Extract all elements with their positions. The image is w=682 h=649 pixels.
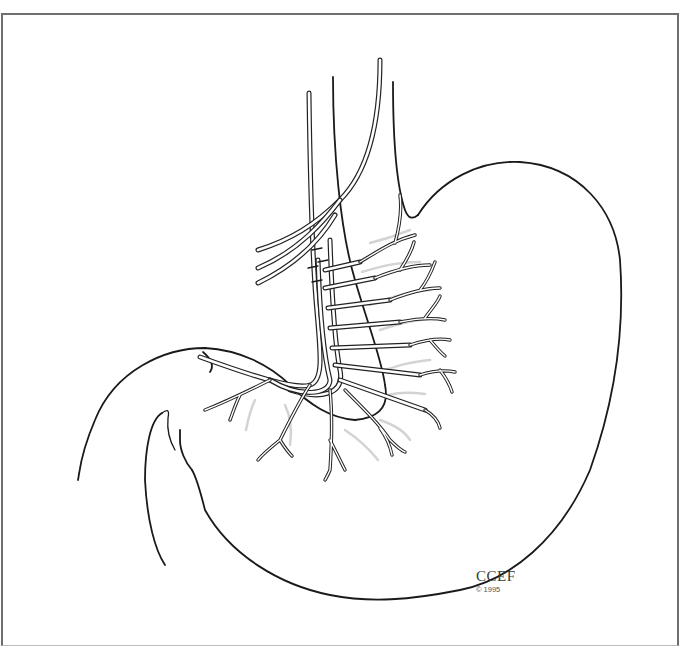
stomach-illustration xyxy=(0,0,682,649)
vagus-trunks xyxy=(200,60,380,395)
copyright-label: © 1995 xyxy=(476,585,500,594)
stomach-outline xyxy=(78,162,621,600)
credit-label: CCEF xyxy=(476,568,516,585)
